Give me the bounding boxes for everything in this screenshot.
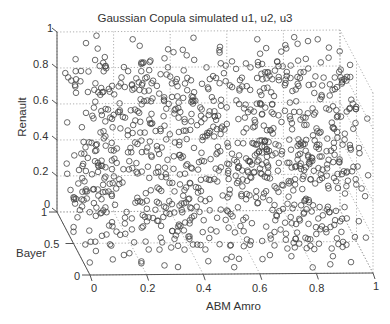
y-tick-0: 0 [74, 270, 80, 282]
x-axis-label: ABM Amro [206, 300, 261, 312]
plot-area [0, 0, 390, 324]
x-tick-1: 1 [373, 280, 379, 292]
z-tick-0.8: 0.8 [33, 58, 48, 70]
y-axis-label: Bayer [16, 247, 46, 259]
z-tick-0.4: 0.4 [33, 130, 48, 142]
y-tick-0.5: 0.5 [44, 238, 59, 250]
x-tick-0.2: 0.2 [140, 282, 155, 294]
y-tick-1: 1 [41, 206, 47, 218]
z-tick-0.2: 0.2 [33, 165, 48, 177]
data-points [63, 33, 371, 270]
x-tick-0: 0 [91, 282, 97, 294]
x-tick-0.6: 0.6 [252, 282, 267, 294]
z-tick-1: 1 [47, 22, 53, 34]
z-axis-label: Renault [16, 97, 28, 137]
x-tick-0.8: 0.8 [309, 282, 324, 294]
x-tick-0.4: 0.4 [196, 282, 211, 294]
z-tick-0.6: 0.6 [33, 94, 48, 106]
